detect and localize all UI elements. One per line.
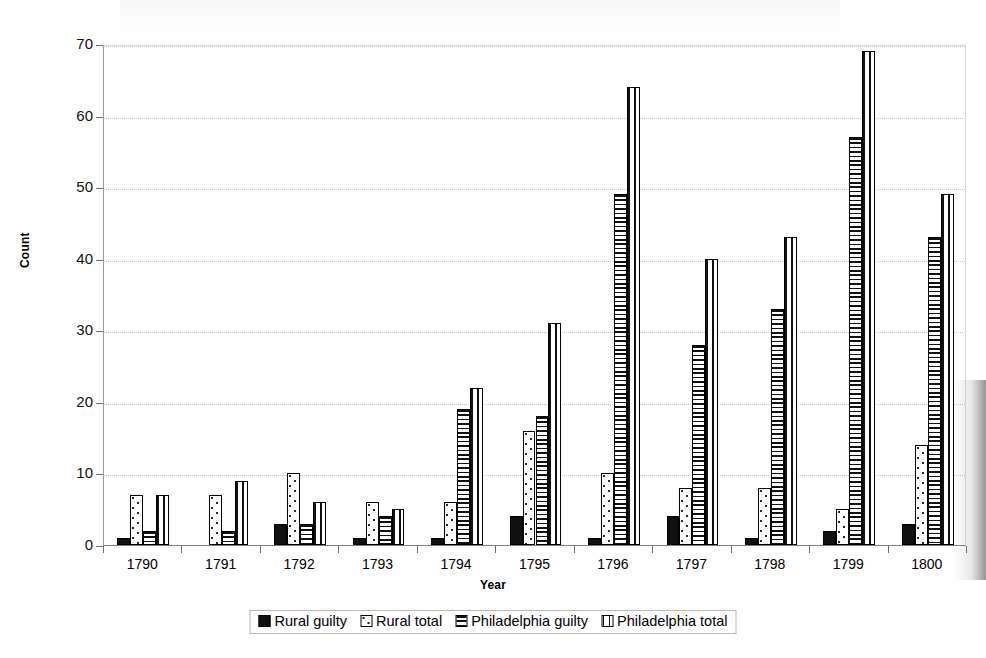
- x-tick-label: 1796: [574, 556, 652, 572]
- y-tick-label: 20: [51, 393, 93, 410]
- legend-label: Rural guilty: [275, 614, 348, 629]
- bar: [313, 502, 326, 545]
- bar: [431, 538, 444, 545]
- bar: [143, 531, 156, 545]
- bar: [771, 309, 784, 545]
- x-tick-mark: [260, 546, 261, 553]
- bar: [614, 194, 627, 545]
- y-tick-mark: [96, 188, 103, 189]
- bar: [117, 538, 130, 545]
- x-tick-mark: [888, 546, 889, 553]
- bar: [692, 345, 705, 545]
- legend-label: Rural total: [376, 614, 442, 629]
- x-tick-mark: [574, 546, 575, 553]
- y-tick-mark: [96, 260, 103, 261]
- gridline: [104, 404, 965, 405]
- x-tick-label: 1793: [338, 556, 416, 572]
- bar: [928, 237, 941, 545]
- legend-item: Philadelphia total: [601, 614, 727, 629]
- legend-label: Philadelphia total: [617, 614, 727, 629]
- bar: [209, 495, 222, 545]
- bar: [457, 409, 470, 545]
- bar-chart: Count 010203040506070 179017911792179317…: [0, 0, 986, 658]
- x-tick-label: 1794: [417, 556, 495, 572]
- x-tick-mark: [338, 546, 339, 553]
- bar: [379, 516, 392, 545]
- bar: [392, 509, 405, 545]
- x-tick-mark: [181, 546, 182, 553]
- bar: [235, 481, 248, 545]
- bar: [536, 416, 549, 545]
- bar: [941, 194, 954, 545]
- gridline: [104, 261, 965, 262]
- x-tick-label: 1800: [888, 556, 966, 572]
- bar: [353, 538, 366, 545]
- y-tick-label: 70: [51, 35, 93, 52]
- bar: [287, 473, 300, 545]
- x-tick-label: 1798: [731, 556, 809, 572]
- bar: [300, 524, 313, 545]
- gridline: [104, 189, 965, 190]
- legend-swatch-icon: [601, 615, 613, 627]
- y-tick-label: 40: [51, 250, 93, 267]
- plot-area: [103, 45, 966, 546]
- bar: [862, 51, 875, 545]
- x-tick-label: 1797: [652, 556, 730, 572]
- x-tick-mark: [103, 546, 104, 553]
- legend-label: Philadelphia guilty: [471, 614, 588, 629]
- x-tick-mark: [966, 546, 967, 553]
- bar: [274, 524, 287, 545]
- bar: [705, 259, 718, 545]
- bar: [667, 516, 680, 545]
- y-tick-label: 0: [51, 536, 93, 553]
- bar: [745, 538, 758, 545]
- x-tick-label: 1792: [260, 556, 338, 572]
- bar: [823, 531, 836, 545]
- bar: [156, 495, 169, 545]
- y-tick-mark: [96, 117, 103, 118]
- bar: [627, 87, 640, 545]
- y-tick-mark: [96, 474, 103, 475]
- bar: [758, 488, 771, 545]
- bar: [444, 502, 457, 545]
- bar: [902, 524, 915, 545]
- bar: [470, 388, 483, 545]
- scan-artifact-top: [120, 0, 840, 34]
- x-tick-mark: [417, 546, 418, 553]
- chart-legend: Rural guiltyRural totalPhiladelphia guil…: [250, 610, 737, 634]
- y-tick-label: 10: [51, 464, 93, 481]
- bar: [130, 495, 143, 545]
- x-tick-mark: [809, 546, 810, 553]
- gridline: [104, 332, 965, 333]
- bar: [366, 502, 379, 545]
- legend-swatch-icon: [360, 615, 372, 627]
- y-tick-mark: [96, 403, 103, 404]
- x-tick-mark: [731, 546, 732, 553]
- bar: [222, 531, 235, 545]
- gridline: [104, 118, 965, 119]
- legend-item: Rural total: [360, 614, 442, 629]
- y-tick-label: 30: [51, 321, 93, 338]
- bar: [548, 323, 561, 545]
- y-tick-label: 50: [51, 178, 93, 195]
- legend-item: Philadelphia guilty: [455, 614, 588, 629]
- legend-swatch-icon: [455, 615, 467, 627]
- gridline: [104, 46, 965, 47]
- x-tick-mark: [495, 546, 496, 553]
- bar: [915, 445, 928, 545]
- x-tick-label: 1799: [809, 556, 887, 572]
- y-tick-mark: [96, 331, 103, 332]
- bar: [784, 237, 797, 545]
- y-tick-mark: [96, 546, 103, 547]
- x-axis-title: Year: [0, 578, 986, 592]
- bar: [523, 431, 536, 546]
- x-tick-mark: [652, 546, 653, 553]
- bar: [601, 473, 614, 545]
- x-tick-label: 1791: [181, 556, 259, 572]
- y-tick-mark: [96, 45, 103, 46]
- y-tick-label: 60: [51, 107, 93, 124]
- bar: [510, 516, 523, 545]
- bar: [849, 137, 862, 545]
- legend-swatch-icon: [259, 615, 271, 627]
- bar: [679, 488, 692, 545]
